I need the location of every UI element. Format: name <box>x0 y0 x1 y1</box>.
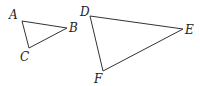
vertex-label-f: F <box>93 72 103 86</box>
triangle-def <box>90 16 183 71</box>
vertex-label-e: E <box>184 23 194 37</box>
vertex-label-b: B <box>68 21 78 35</box>
triangle-abc <box>22 21 67 48</box>
vertex-label-c: C <box>20 50 29 64</box>
vertex-label-a: A <box>8 8 18 22</box>
triangles-diagram: A B C D E F <box>0 0 200 86</box>
vertex-label-d: D <box>79 5 90 19</box>
